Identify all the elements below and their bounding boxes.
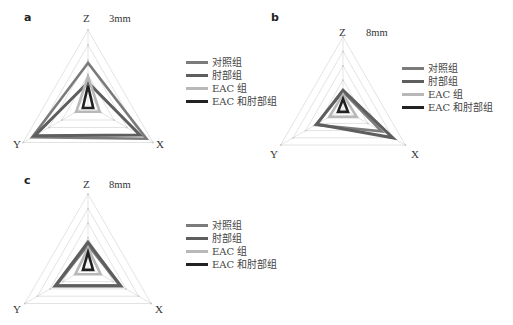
tick-dot <box>150 303 152 305</box>
legend-item: EAC 组 <box>402 88 493 101</box>
legend-label: EAC 和肘部组 <box>428 101 493 114</box>
legend-swatch <box>186 237 208 240</box>
tick-dot <box>87 193 89 195</box>
legend-label: EAC 组 <box>428 88 463 101</box>
legend-item: 对照组 <box>186 219 277 232</box>
tick-dot <box>125 288 127 290</box>
legend-label: EAC 组 <box>212 245 247 258</box>
legend-item: EAC 和肘部组 <box>402 101 493 114</box>
legend-label: 肘部组 <box>428 75 458 88</box>
tick-dot <box>292 137 294 139</box>
tick-dot <box>342 51 344 53</box>
legend-swatch <box>402 67 424 70</box>
legend-label: 肘部组 <box>212 232 242 245</box>
tick-dot <box>367 123 369 125</box>
tick-dot <box>342 79 344 81</box>
legend-swatch <box>186 263 208 266</box>
legend-swatch <box>186 224 208 227</box>
tick-dot <box>138 295 140 297</box>
tick-dot <box>404 144 406 146</box>
legend-item: 对照组 <box>402 62 493 75</box>
radar-chart-c <box>0 0 260 325</box>
tick-dot <box>87 222 89 224</box>
tick-dot <box>62 281 64 283</box>
tick-dot <box>87 237 89 239</box>
tick-dot <box>305 130 307 132</box>
legend-item: 肘部组 <box>186 232 277 245</box>
legend-item: 肘部组 <box>402 75 493 88</box>
legend-swatch <box>402 80 424 83</box>
tick-dot <box>280 144 282 146</box>
legend-swatch <box>402 93 424 96</box>
legend-label: EAC 和肘部组 <box>212 258 277 271</box>
tick-dot <box>24 303 26 305</box>
legend-item: EAC 组 <box>186 245 277 258</box>
tick-dot <box>49 288 51 290</box>
legend-swatch <box>402 106 424 109</box>
legend-label: 对照组 <box>428 62 458 75</box>
legend: 对照组肘部组EAC 组EAC 和肘部组 <box>402 62 493 114</box>
tick-dot <box>342 36 344 38</box>
tick-dot <box>112 281 114 283</box>
legend-swatch <box>186 250 208 253</box>
legend-item: EAC 和肘部组 <box>186 258 277 271</box>
legend: 对照组肘部组EAC 组EAC 和肘部组 <box>186 219 277 271</box>
legend-label: 对照组 <box>212 219 242 232</box>
panel-c: c Z 8mm Y X 对照组肘部组EAC 组EAC 和肘部组 <box>0 0 260 325</box>
tick-dot <box>37 295 39 297</box>
tick-dot <box>342 65 344 67</box>
tick-dot <box>87 208 89 210</box>
